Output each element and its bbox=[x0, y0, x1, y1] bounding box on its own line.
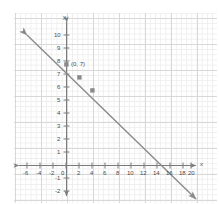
y-tick-label: 4 bbox=[57, 110, 60, 116]
x-tick-label: 12 bbox=[140, 170, 147, 176]
x-tick-label: -6 bbox=[23, 170, 28, 176]
x-tick-label: 4 bbox=[90, 170, 93, 176]
x-tick-label: -4 bbox=[36, 170, 41, 176]
y-tick-label: 5 bbox=[57, 97, 60, 103]
point-marker bbox=[77, 75, 81, 79]
y-tick-label: -1 bbox=[55, 175, 60, 181]
y-tick-label: 2 bbox=[57, 136, 60, 142]
point-marker bbox=[90, 88, 94, 92]
point-marker bbox=[64, 62, 68, 66]
plot-area bbox=[0, 0, 219, 204]
x-tick-label: 16 bbox=[166, 170, 173, 176]
x-tick-label: 10 bbox=[127, 170, 134, 176]
y-tick-label: 3 bbox=[57, 123, 60, 129]
y-tick-label: 6 bbox=[57, 84, 60, 90]
point-annotation-label: (0, 7) bbox=[71, 61, 85, 67]
x-tick-label: 6 bbox=[103, 170, 106, 176]
y-tick-label: -2 bbox=[55, 188, 60, 194]
y-tick-label: 7 bbox=[57, 71, 60, 77]
y-axis-label: y bbox=[63, 14, 66, 20]
x-tick-label: 14 bbox=[153, 170, 160, 176]
y-tick-label: 10 bbox=[54, 32, 61, 38]
x-tick-label: 18 bbox=[179, 170, 186, 176]
y-axis bbox=[64, 22, 70, 196]
y-tick-label: 1 bbox=[57, 149, 60, 155]
x-tick-label: -2 bbox=[49, 170, 54, 176]
coordinate-plane-graph: -6 -4 -2 0 2 4 6 8 10 12 14 16 18 20 10 … bbox=[0, 0, 219, 204]
x-tick-label: 0 bbox=[61, 170, 64, 176]
x-axis bbox=[19, 163, 196, 169]
x-tick-label: 8 bbox=[116, 170, 119, 176]
x-axis-label: x bbox=[200, 161, 203, 167]
x-tick-label: 20 bbox=[188, 170, 195, 176]
y-tick-label: 9 bbox=[57, 45, 60, 51]
y-tick-label: 8 bbox=[57, 58, 60, 64]
x-tick-label: 2 bbox=[77, 170, 80, 176]
